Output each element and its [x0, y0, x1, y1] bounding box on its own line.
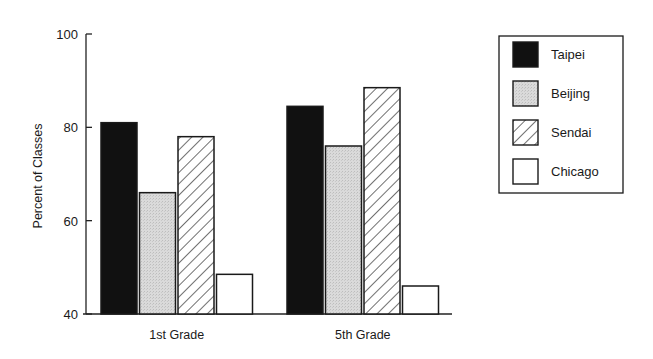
legend: TaipeiBeijingSendaiChicago	[499, 36, 623, 193]
y-tick-label: 100	[56, 27, 78, 42]
legend-swatch	[513, 120, 538, 145]
bar-sendai	[364, 88, 400, 314]
bar-beijing	[326, 146, 362, 314]
bar-chart: 406080100Percent of Classes 1st Grade5th…	[0, 0, 653, 359]
bar-beijing	[140, 193, 176, 314]
legend-label: Taipei	[551, 47, 585, 62]
bar-chicago	[403, 286, 439, 314]
y-axis-title: Percent of Classes	[31, 124, 45, 229]
legend-label: Chicago	[551, 164, 599, 179]
x-category-label: 5th Grade	[335, 328, 391, 342]
bar-group-5th-grade	[287, 88, 439, 314]
legend-label: Sendai	[551, 125, 592, 140]
x-category-label: 1st Grade	[149, 328, 204, 342]
y-tick-label: 40	[64, 307, 78, 322]
bar-taipei	[101, 123, 137, 314]
legend-swatch	[513, 81, 538, 106]
bar-taipei	[287, 106, 323, 314]
bar-sendai	[178, 137, 214, 314]
bar-group-1st-grade	[101, 123, 253, 314]
x-axis-labels: 1st Grade5th Grade	[149, 328, 390, 342]
y-tick-label: 60	[64, 214, 78, 229]
legend-swatch	[513, 42, 538, 67]
bar-chicago	[217, 274, 253, 314]
legend-swatch	[513, 159, 538, 184]
bars	[101, 88, 439, 314]
legend-label: Beijing	[551, 86, 590, 101]
y-tick-label: 80	[64, 120, 78, 135]
